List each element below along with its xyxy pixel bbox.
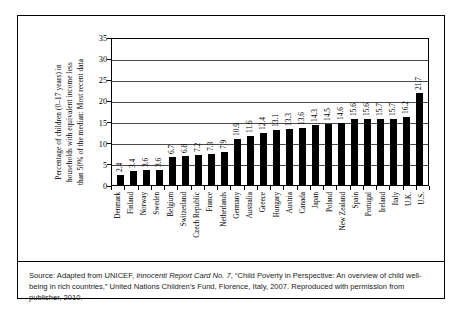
chart-region: Percentage of children (0–17 years) in h… [18, 16, 446, 261]
bar[interactable] [247, 136, 255, 185]
bar-value-label: 14.6 [336, 107, 345, 120]
bar[interactable] [286, 129, 294, 185]
bar-column[interactable]: 3.6 [140, 39, 153, 185]
bar[interactable] [416, 93, 424, 185]
x-tick-label: Hungary [273, 192, 281, 217]
x-tick-mark [429, 186, 430, 190]
x-tick-label: New Zealand [339, 192, 347, 231]
bar[interactable] [325, 124, 333, 185]
bar-column[interactable]: 15.7 [387, 39, 400, 185]
x-tick-label: Australia [246, 192, 254, 218]
x-tick-mark [204, 186, 205, 190]
bar[interactable] [403, 117, 411, 186]
x-tick-label: Portugal [365, 192, 373, 216]
bar-value-label: 13.3 [284, 113, 293, 126]
x-tick-mark [270, 186, 271, 190]
bar[interactable] [169, 157, 177, 185]
plot-area: 2.43.43.63.66.76.87.27.37.910.911.612.41… [111, 38, 429, 186]
bar-column[interactable]: 13.3 [283, 39, 296, 185]
x-tick-label: U.K. [405, 192, 413, 206]
y-axis-ticks: 05101520253035 [88, 38, 111, 186]
x-tick-label: Japan [312, 192, 320, 208]
bar[interactable] [390, 119, 398, 185]
bar-column[interactable]: 13.6 [296, 39, 309, 185]
x-tick-label: Italy [392, 192, 400, 205]
caption-part-1: Source: Adapted from UNICEF, [29, 271, 136, 280]
bar[interactable] [312, 125, 320, 185]
bar-column[interactable]: 12.4 [257, 39, 270, 185]
bar[interactable] [234, 139, 242, 185]
x-label-column: Netherlands [217, 191, 230, 259]
bar[interactable] [130, 171, 138, 185]
bar[interactable] [143, 170, 151, 185]
x-tick-label: Austria [286, 192, 294, 213]
bar[interactable] [221, 152, 229, 185]
x-tick-mark [164, 186, 165, 190]
bar[interactable] [195, 155, 203, 185]
bar-column[interactable]: 7.2 [192, 39, 205, 185]
bar-value-label: 21.7 [414, 77, 423, 90]
x-tick-label: Switzerland [180, 192, 188, 226]
bar-column[interactable]: 15.7 [374, 39, 387, 185]
bar[interactable] [377, 119, 385, 185]
x-axis-labels: DenmarkFinlandNorwaySwedenBelgiumSwitzer… [111, 191, 429, 259]
x-tick-label: U.S. [418, 192, 426, 205]
bar-column[interactable]: 15.6 [361, 39, 374, 185]
y-axis-label-line-3: than 50% of the median: Most recent data [75, 59, 86, 185]
bar[interactable] [299, 128, 307, 186]
bar-value-label: 14.3 [310, 109, 319, 122]
bar-column[interactable]: 2.4 [114, 39, 127, 185]
bar-column[interactable]: 15.6 [348, 39, 361, 185]
bar[interactable] [273, 130, 281, 185]
bar-value-label: 14.5 [323, 108, 332, 121]
bar-column[interactable]: 11.6 [244, 39, 257, 185]
bar-column[interactable]: 7.3 [205, 39, 218, 185]
x-tick-label: Denmark [114, 192, 122, 219]
x-label-column: Switzerland [177, 191, 190, 259]
bar[interactable] [338, 123, 346, 185]
bar-value-label: 11.6 [245, 120, 254, 133]
bar-column[interactable]: 10.9 [231, 39, 244, 185]
x-tick-mark [111, 186, 112, 190]
bar[interactable] [364, 119, 372, 185]
x-label-column: Japan [310, 191, 323, 259]
x-label-column: Sweden [151, 191, 164, 259]
bar-column[interactable]: 6.7 [166, 39, 179, 185]
x-label-column: U.K. [403, 191, 416, 259]
x-tick-label: Belgium [167, 192, 175, 217]
bar-value-label: 15.7 [388, 103, 397, 116]
x-tick-mark [323, 186, 324, 190]
bar[interactable] [117, 175, 125, 185]
bar[interactable] [208, 154, 216, 185]
bar-column[interactable]: 13.1 [270, 39, 283, 185]
bar-value-label: 6.8 [180, 144, 189, 153]
x-tick-label: Germany [233, 192, 241, 219]
x-tick-mark [151, 186, 152, 190]
x-tick-mark [389, 186, 390, 190]
x-tick-label: Finland [127, 192, 135, 214]
bar-value-label: 7.3 [206, 142, 215, 151]
x-tick-mark [138, 186, 139, 190]
x-label-column: Finland [124, 191, 137, 259]
bar[interactable] [156, 170, 164, 185]
x-label-column: Spain [350, 191, 363, 259]
bar-column[interactable]: 21.7 [413, 39, 426, 185]
bar-column[interactable]: 6.8 [179, 39, 192, 185]
bar-column[interactable]: 16.2 [400, 39, 413, 185]
bar-column[interactable]: 3.6 [153, 39, 166, 185]
bar-value-label: 15.6 [362, 103, 371, 116]
bar-column[interactable]: 14.5 [322, 39, 335, 185]
bar-column[interactable]: 14.6 [335, 39, 348, 185]
y-axis-label-text: Percentage of children (0–17 years) in h… [53, 59, 86, 185]
x-label-column: Greece [257, 191, 270, 259]
bar[interactable] [260, 133, 268, 185]
source-caption: Source: Adapted from UNICEF, Innocenti R… [18, 262, 444, 310]
bar[interactable] [351, 119, 359, 185]
x-tick-mark [191, 186, 192, 190]
bar-column[interactable]: 7.9 [218, 39, 231, 185]
bar-column[interactable]: 14.3 [309, 39, 322, 185]
x-tick-mark [244, 186, 245, 190]
bar-column[interactable]: 3.4 [127, 39, 140, 185]
x-tick-label: Spain [352, 192, 360, 208]
bar[interactable] [182, 156, 190, 185]
